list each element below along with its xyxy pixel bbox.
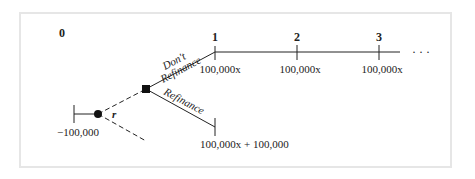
decision-tree-diagram: 0 1 2 3 · · · 100,000x 100,000x 100,000x… bbox=[0, 0, 475, 179]
refinance-cash-flow: 100,000x + 100,000 bbox=[200, 138, 289, 150]
time-label-3: 3 bbox=[376, 30, 382, 44]
cash-flow-1: 100,000x bbox=[199, 63, 241, 75]
time-label-1: 1 bbox=[212, 30, 218, 44]
ellipsis: · · · bbox=[412, 45, 430, 59]
chance-node-icon bbox=[94, 110, 102, 118]
dashed-branch-down bbox=[98, 114, 146, 141]
cash-flow-3: 100,000x bbox=[361, 63, 403, 75]
cash-flow-2: 100,000x bbox=[279, 63, 321, 75]
initial-cash-flow: −100,000 bbox=[57, 126, 99, 138]
decision-node-icon bbox=[142, 85, 150, 93]
dashed-branch-up bbox=[98, 89, 146, 114]
time-label-2: 2 bbox=[294, 30, 300, 44]
rate-label: r bbox=[112, 108, 117, 120]
time-label-0: 0 bbox=[59, 26, 65, 40]
